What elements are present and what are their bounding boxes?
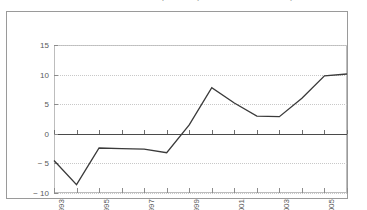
line-series [54, 45, 347, 193]
x-tick-label: 2001 [237, 199, 246, 210]
y-tick-label: 15 [40, 41, 49, 50]
plot-area: 151050− 5− 10 19931995199719992001200320… [54, 45, 347, 193]
gridline [54, 193, 347, 194]
x-tick-mark [347, 188, 348, 193]
y-tick-label: − 10 [33, 189, 49, 198]
x-tick-label: 1999 [192, 199, 201, 210]
y-tick-label: 5 [45, 100, 49, 109]
y-tick-label: 10 [40, 70, 49, 79]
series-polyline [54, 74, 347, 185]
x-tick-mark-zero [347, 130, 348, 134]
chart-title: Tabela 3 — Resultado primário (1993-2006… [0, 0, 367, 1]
x-tick-label: 1993 [57, 199, 66, 210]
y-tick-label: − 5 [38, 159, 49, 168]
y-tick-mark [54, 193, 58, 194]
figure-frame: 151050− 5− 10 19931995199719992001200320… [6, 11, 348, 199]
x-tick-label: 2003 [282, 199, 291, 210]
x-tick-label: 1995 [102, 199, 111, 210]
x-tick-label: 2005 [327, 199, 336, 210]
x-tick-label: 1997 [147, 199, 156, 210]
y-tick-label: 0 [45, 129, 49, 138]
